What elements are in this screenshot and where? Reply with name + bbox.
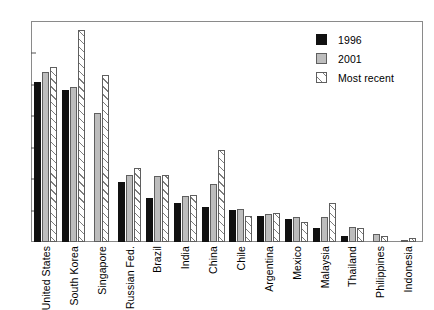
x-axis-label-cell: Thailand bbox=[338, 246, 366, 304]
x-axis-tick-label: China bbox=[207, 246, 219, 274]
bar-group bbox=[32, 22, 60, 242]
bar bbox=[34, 82, 41, 242]
x-axis-tick-label: Russian Fed. bbox=[124, 246, 136, 309]
x-axis-label-cell: Philippines bbox=[366, 246, 394, 304]
bar bbox=[409, 238, 416, 242]
bar bbox=[190, 195, 197, 242]
bar bbox=[273, 213, 280, 242]
legend-item-label: Most recent bbox=[338, 72, 394, 84]
bar-group bbox=[116, 22, 144, 242]
bar bbox=[62, 90, 69, 242]
bar-group bbox=[199, 22, 227, 242]
bar bbox=[210, 184, 217, 242]
x-axis-tick-label: Philippines bbox=[374, 246, 386, 298]
bar bbox=[218, 150, 225, 242]
x-axis-labels: United StatesSouth KoreaSingaporeRussian… bbox=[32, 246, 422, 304]
bar-group bbox=[255, 22, 283, 242]
bar bbox=[245, 216, 252, 242]
bar bbox=[381, 236, 388, 242]
bar bbox=[202, 207, 209, 242]
bar-group bbox=[60, 22, 88, 242]
legend-item-label: 1996 bbox=[338, 34, 362, 46]
x-axis-tick-label: United States bbox=[40, 246, 52, 310]
bar bbox=[174, 203, 181, 242]
x-axis-label-cell: Mexico bbox=[283, 246, 311, 304]
bar bbox=[373, 234, 380, 242]
bar bbox=[78, 30, 85, 242]
x-axis-label-cell: Chile bbox=[227, 246, 255, 304]
bar bbox=[285, 219, 292, 242]
x-axis-label-cell: Russian Fed. bbox=[116, 246, 144, 304]
x-axis-tick-label: Chile bbox=[235, 246, 247, 270]
bar bbox=[70, 87, 77, 242]
legend-item-label: 2001 bbox=[338, 53, 362, 65]
legend-item: 1996 bbox=[316, 30, 394, 49]
bar bbox=[313, 228, 320, 242]
x-axis-tick-label: Argentina bbox=[263, 246, 275, 292]
x-axis-label-cell: China bbox=[199, 246, 227, 304]
x-axis-label-cell: Singapore bbox=[88, 246, 116, 304]
legend-item: 2001 bbox=[316, 49, 394, 68]
x-axis-tick-label: Malaysia bbox=[319, 246, 331, 288]
bar bbox=[146, 198, 153, 242]
x-axis-label-cell: Malaysia bbox=[311, 246, 339, 304]
bar-group bbox=[227, 22, 255, 242]
x-axis-label-cell: United States bbox=[32, 246, 60, 304]
bar-group bbox=[171, 22, 199, 242]
y-axis: 0.00.51.01.52.02.53.03.5 bbox=[0, 0, 31, 264]
x-axis-tick-label: Mexico bbox=[291, 246, 303, 280]
bar-group bbox=[88, 22, 116, 242]
bar bbox=[293, 217, 300, 242]
bar bbox=[257, 216, 264, 242]
x-axis-tick-label: South Korea bbox=[68, 246, 80, 305]
bar bbox=[134, 168, 141, 242]
bar bbox=[154, 176, 161, 242]
bar bbox=[102, 75, 109, 242]
bar-group bbox=[283, 22, 311, 242]
bar bbox=[341, 236, 348, 242]
legend-item: Most recent bbox=[316, 68, 394, 87]
bar bbox=[229, 210, 236, 242]
bar bbox=[42, 72, 49, 242]
bar bbox=[329, 203, 336, 242]
x-axis-label-cell: South Korea bbox=[60, 246, 88, 304]
x-axis-label-cell: India bbox=[171, 246, 199, 304]
bar bbox=[118, 182, 125, 242]
x-axis-label-cell: Argentina bbox=[255, 246, 283, 304]
solid-black-swatch bbox=[316, 34, 327, 45]
x-axis-label-cell: Indonesia bbox=[394, 246, 422, 304]
bar bbox=[162, 175, 169, 242]
x-axis-tick-label: Indonesia bbox=[402, 246, 414, 292]
bar-group bbox=[143, 22, 171, 242]
hatched-swatch bbox=[316, 72, 327, 83]
bar bbox=[301, 222, 308, 242]
bar bbox=[126, 175, 133, 242]
bar bbox=[237, 209, 244, 242]
solid-gray-swatch bbox=[316, 53, 327, 64]
bar bbox=[50, 67, 57, 242]
bar bbox=[182, 196, 189, 242]
x-axis-label-cell: Brazil bbox=[143, 246, 171, 304]
x-axis-tick-label: Thailand bbox=[346, 246, 358, 287]
bar bbox=[349, 227, 356, 242]
bar bbox=[357, 228, 364, 242]
chart-legend: 19962001Most recent bbox=[316, 30, 394, 87]
bar bbox=[401, 240, 408, 243]
bar bbox=[94, 113, 101, 242]
bar bbox=[265, 214, 272, 242]
x-axis-tick-label: Brazil bbox=[151, 246, 163, 273]
bar-group bbox=[394, 22, 422, 242]
bar bbox=[321, 217, 328, 242]
x-axis-tick-label: India bbox=[179, 246, 191, 269]
x-axis-tick-label: Singapore bbox=[96, 246, 108, 295]
